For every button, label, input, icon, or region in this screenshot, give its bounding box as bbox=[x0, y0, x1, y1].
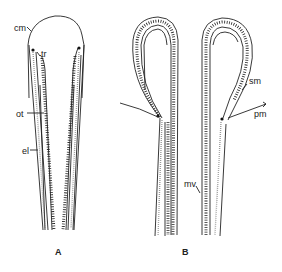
label-pm: pm bbox=[254, 109, 267, 119]
left-loop-ticks bbox=[137, 21, 174, 235]
label-tr: tr bbox=[41, 49, 47, 59]
diagram-canvas: cm tr ot el A bbox=[0, 0, 282, 272]
left-loop-core bbox=[144, 29, 167, 90]
left-loop bbox=[120, 17, 178, 236]
panel-label-a: A bbox=[55, 247, 62, 257]
label-sm: sm bbox=[249, 76, 261, 86]
sm-leader bbox=[242, 84, 247, 90]
right-loop-dot bbox=[220, 117, 223, 120]
cm-leader bbox=[27, 27, 31, 31]
label-cm: cm bbox=[14, 23, 26, 33]
label-mv: mv bbox=[184, 179, 196, 189]
outer-wall-left bbox=[29, 45, 43, 230]
panel-b: sm pm mv B bbox=[120, 17, 267, 257]
mv-leader bbox=[196, 186, 200, 193]
right-attachment-dot bbox=[77, 46, 80, 49]
right-stalk-stipple bbox=[215, 122, 221, 235]
outer-wall-right bbox=[74, 45, 84, 230]
panel-a: cm tr ot el A bbox=[14, 16, 84, 257]
right-stalk-wall bbox=[220, 124, 226, 236]
right-loop bbox=[202, 18, 252, 236]
left-stalk-stipple bbox=[158, 120, 162, 235]
tr-leader bbox=[37, 52, 40, 56]
left-attachment-dot bbox=[31, 48, 34, 51]
right-loop-inner bbox=[210, 27, 243, 235]
panel-label-b: B bbox=[182, 247, 189, 257]
left-stipple bbox=[33, 52, 45, 228]
label-ot: ot bbox=[16, 109, 24, 119]
label-el: el bbox=[22, 146, 29, 156]
right-loop-ticks bbox=[206, 22, 247, 235]
right-loop-core bbox=[213, 32, 238, 45]
left-membrane-line bbox=[120, 103, 158, 117]
